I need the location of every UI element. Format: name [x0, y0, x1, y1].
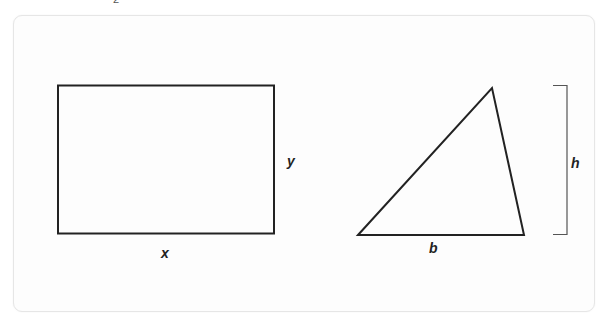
height-bracket [553, 86, 567, 235]
rectangle-shape [58, 86, 274, 234]
rectangle-height-label: y [287, 153, 295, 169]
triangle-shape [358, 88, 524, 235]
rectangle-width-label: x [161, 245, 169, 261]
triangle-base-label: b [429, 240, 438, 256]
diagram-canvas [0, 0, 606, 325]
triangle-height-label: h [571, 155, 580, 171]
